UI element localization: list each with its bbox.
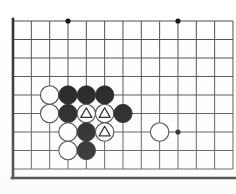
stone-disc[interactable] [95, 123, 113, 141]
stone-black[interactable] [77, 86, 95, 104]
stone-disc[interactable] [40, 86, 58, 104]
stone-disc[interactable] [114, 104, 132, 122]
star-point [175, 18, 180, 23]
stone-disc[interactable] [77, 123, 95, 141]
stone-black[interactable] [114, 104, 132, 122]
star-point [175, 129, 180, 134]
stone-disc[interactable] [77, 86, 95, 104]
stone-disc[interactable] [77, 141, 95, 159]
stone-black[interactable] [59, 86, 77, 104]
stone-white[interactable] [40, 86, 58, 104]
stone-white-triangle[interactable] [95, 123, 113, 141]
stone-white[interactable] [59, 141, 77, 159]
stone-white-triangle[interactable] [77, 104, 95, 122]
board-background [0, 0, 236, 194]
stone-disc[interactable] [59, 86, 77, 104]
go-board[interactable] [0, 0, 236, 194]
stone-disc[interactable] [77, 104, 95, 122]
star-point [65, 18, 70, 23]
stone-black[interactable] [77, 123, 95, 141]
stone-black[interactable] [59, 104, 77, 122]
stone-black[interactable] [77, 141, 95, 159]
stone-white-triangle[interactable] [95, 104, 113, 122]
stone-disc[interactable] [59, 141, 77, 159]
stone-black[interactable] [95, 86, 113, 104]
stone-disc[interactable] [150, 123, 168, 141]
stone-white[interactable] [59, 123, 77, 141]
stone-disc[interactable] [40, 104, 58, 122]
stone-white[interactable] [40, 104, 58, 122]
stone-disc[interactable] [95, 86, 113, 104]
stone-disc[interactable] [95, 104, 113, 122]
go-diagram-screenshot [0, 0, 236, 194]
stone-disc[interactable] [59, 123, 77, 141]
stone-disc[interactable] [59, 104, 77, 122]
stone-white[interactable] [150, 123, 168, 141]
